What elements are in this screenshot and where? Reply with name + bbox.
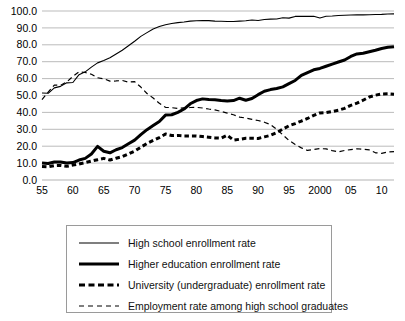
legend-item-university: University (undergraduate) enrollment ra… [77,276,325,294]
x-axis-tick-label: 85 [221,184,233,196]
x-axis-tick-label: 55 [36,184,48,196]
y-axis-tick-label: 0.0 [22,174,37,186]
plot-area: 0.010.020.030.040.050.060.070.080.090.01… [0,0,405,200]
y-axis-tick-label: 100.0 [11,5,37,17]
y-axis-tick-label: 10.0 [17,157,38,169]
x-axis-tick-label: 60 [67,184,79,196]
chart-legend: High school enrollment rate Higher educa… [66,225,332,313]
x-axis-tick-labels: 55606570758085909520000510 [36,184,387,196]
legend-item-higher-education: Higher education enrollment rate [77,255,280,273]
x-axis-tick-label: 75 [160,184,172,196]
legend-label: University (undergraduate) enrollment ra… [128,279,325,291]
y-axis-tick-label: 30.0 [17,123,38,135]
x-axis-tick-label: 05 [345,184,357,196]
y-axis-tick-label: 50.0 [17,89,38,101]
x-axis-tick-label: 80 [191,184,203,196]
legend-swatch-thin-dashed [77,300,121,312]
x-axis-tick-label: 65 [98,184,110,196]
legend-swatch-thin-solid [77,237,121,249]
legend-item-high-school: High school enrollment rate [77,234,256,252]
y-axis-tick-label: 40.0 [17,106,38,118]
legend-label: High school enrollment rate [128,237,256,249]
legend-item-employment: Employment rate among high school gradua… [77,297,348,315]
x-axis-tick-label: 90 [252,184,264,196]
data-series-group [42,14,394,167]
y-axis-tick-label: 90.0 [17,22,38,34]
line-chart-svg: 0.010.020.030.040.050.060.070.080.090.01… [0,0,405,200]
x-axis-tick-label: 10 [376,184,388,196]
legend-swatch-thick-solid [77,258,121,270]
series-line [42,94,394,167]
legend-label: Employment rate among high school gradua… [128,300,348,312]
gridlines [42,11,394,180]
y-axis-tick-label: 60.0 [17,72,38,84]
series-line [42,14,394,93]
y-axis-tick-label: 20.0 [17,140,38,152]
legend-swatch-thick-dashed [77,279,121,291]
x-axis-tick-label: 95 [283,184,295,196]
y-axis-tick-label: 70.0 [17,55,38,67]
x-axis-tick-label: 2000 [308,184,332,196]
y-axis-tick-label: 80.0 [17,38,38,50]
legend-label: Higher education enrollment rate [128,258,280,270]
x-axis-tick-label: 70 [129,184,141,196]
y-axis-tick-labels: 0.010.020.030.040.050.060.070.080.090.01… [11,5,37,186]
chart-root: 0.010.020.030.040.050.060.070.080.090.01… [0,0,405,321]
